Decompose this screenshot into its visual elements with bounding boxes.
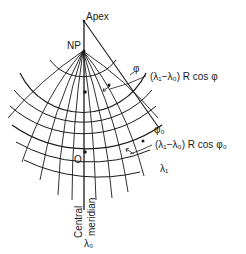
lambda1-label: λ₁ <box>160 163 169 174</box>
phi-label: φ <box>133 63 140 74</box>
apex-point <box>83 20 86 23</box>
lambda0-label: λ₀ <box>84 238 93 249</box>
parallel-arc <box>12 125 162 149</box>
phi0-central-dot <box>83 150 87 154</box>
phi0-label: φ₀ <box>154 124 165 135</box>
phi-lambda1-dot <box>108 84 111 87</box>
np-label: NP <box>67 40 81 51</box>
arc-length-phi-label: (λ₁−λ₀) R cos φ <box>150 71 218 82</box>
phi0-lambda1-dot <box>142 140 145 143</box>
meridian-line <box>8 51 83 118</box>
parallel-arc <box>20 73 146 112</box>
parallel-arc <box>16 142 150 162</box>
leader-phi0 <box>130 145 152 154</box>
projection-diagram: Apex NP φ (λ₁−λ₀) R cos φ φ₀ (λ₁−λ₀) R c… <box>0 0 246 254</box>
central-label: Central <box>73 206 84 238</box>
phi-central-dot <box>83 90 87 94</box>
apex-label: Apex <box>86 11 109 22</box>
np-point <box>83 50 86 53</box>
parallel-arc <box>10 106 156 134</box>
origin-label: O <box>74 154 82 165</box>
arc-length-arrows <box>103 72 152 154</box>
meridian-line <box>83 51 158 118</box>
meridian-label: meridian <box>86 198 97 236</box>
parallel-arc <box>14 90 152 122</box>
meridian-line <box>83 51 112 198</box>
arc-length-phi0-label: (λ₁−λ₀) R cos φ₀ <box>155 139 227 150</box>
meridian-line <box>72 51 83 200</box>
central-meridian-caption: Central meridian <box>73 198 97 238</box>
